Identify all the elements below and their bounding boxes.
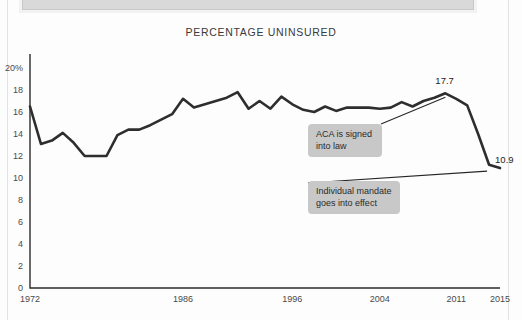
annotation-individual-mandate: Individual mandate goes into effect bbox=[308, 181, 400, 214]
y-axis-tick-label: 2 bbox=[18, 261, 23, 271]
x-axis-tick-label: 2004 bbox=[370, 294, 390, 304]
y-axis-tick-label: 0 bbox=[18, 283, 23, 293]
x-axis-tick-label: 1996 bbox=[282, 294, 302, 304]
y-axis-tick-label: 6 bbox=[18, 217, 23, 227]
y-axis-tick-label: 18 bbox=[13, 85, 23, 95]
chart-axes bbox=[30, 54, 500, 288]
chart-svg: 20%1816141210864201972198619962004201120… bbox=[0, 0, 522, 320]
x-axis-tick-label: 1972 bbox=[20, 294, 40, 304]
line-chart: 20%1816141210864201972198619962004201120… bbox=[0, 0, 522, 320]
annotation-leader-line-aca bbox=[381, 97, 445, 124]
y-axis-tick-label: 16 bbox=[13, 107, 23, 117]
y-axis-tick-label: 12 bbox=[13, 151, 23, 161]
y-axis-tick-label: 4 bbox=[18, 239, 23, 249]
data-point-label-end: 10.9 bbox=[495, 154, 514, 165]
annotation-aca-signed: ACA is signed into law bbox=[308, 124, 382, 157]
y-axis-tick-label: 10 bbox=[13, 173, 23, 183]
x-axis-tick-label: 1986 bbox=[173, 294, 193, 304]
x-axis-tick-label: 2015 bbox=[490, 294, 510, 304]
data-point-label-peak: 17.7 bbox=[435, 75, 454, 86]
chart-page: PERCENTAGE UNINSURED 20%1816141210864201… bbox=[0, 0, 522, 320]
y-axis-tick-label: 20% bbox=[5, 63, 23, 73]
y-axis-tick-label: 8 bbox=[18, 195, 23, 205]
y-axis-tick-label: 14 bbox=[13, 129, 23, 139]
x-axis-tick-label: 2011 bbox=[447, 294, 466, 304]
